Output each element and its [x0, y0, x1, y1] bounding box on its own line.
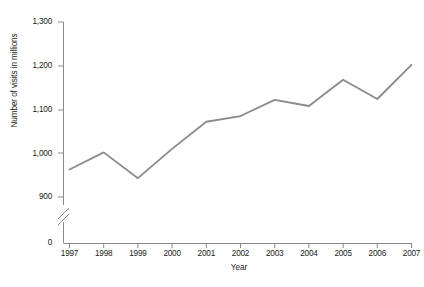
data-series-line	[70, 65, 412, 178]
plot-area	[0, 0, 424, 287]
y-axis	[58, 22, 69, 243]
x-axis	[64, 244, 413, 249]
x-tick-label-2007: 2007	[392, 249, 424, 258]
line-chart: Number of visits in millions 1,300 1,200…	[0, 0, 424, 287]
x-axis-title: Year	[60, 263, 418, 272]
